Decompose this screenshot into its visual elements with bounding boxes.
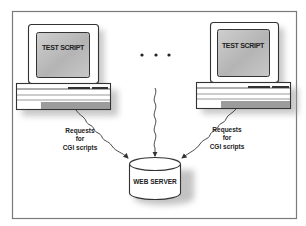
- request-label-line: CGI scripts: [210, 143, 245, 151]
- screen-label: TEST SCRIPT: [222, 42, 265, 49]
- request-label-left: Requests for CGI scripts: [63, 127, 98, 152]
- web-server: WEB SERVER: [130, 158, 195, 206]
- screen: [218, 30, 270, 77]
- client-computer-left: TEST SCRIPT: [17, 25, 119, 117]
- request-arrow-center: [154, 88, 156, 156]
- server-label: WEB SERVER: [133, 178, 177, 185]
- diagram-canvas: TEST SCRIPT TEST SCRIPT Requests fo: [0, 0, 306, 226]
- ellipsis-more-clients: [140, 53, 170, 56]
- request-label-line: for: [223, 134, 232, 141]
- request-label-line: Requests: [212, 126, 242, 134]
- screen: [37, 33, 90, 78]
- screen-label: TEST SCRIPT: [42, 44, 85, 51]
- request-label-line: for: [76, 135, 85, 142]
- request-label-right: Requests for CGI scripts: [210, 126, 245, 151]
- request-label-line: Requests: [65, 127, 95, 135]
- request-label-line: CGI scripts: [63, 144, 98, 152]
- client-computer-right: TEST SCRIPT: [197, 23, 299, 115]
